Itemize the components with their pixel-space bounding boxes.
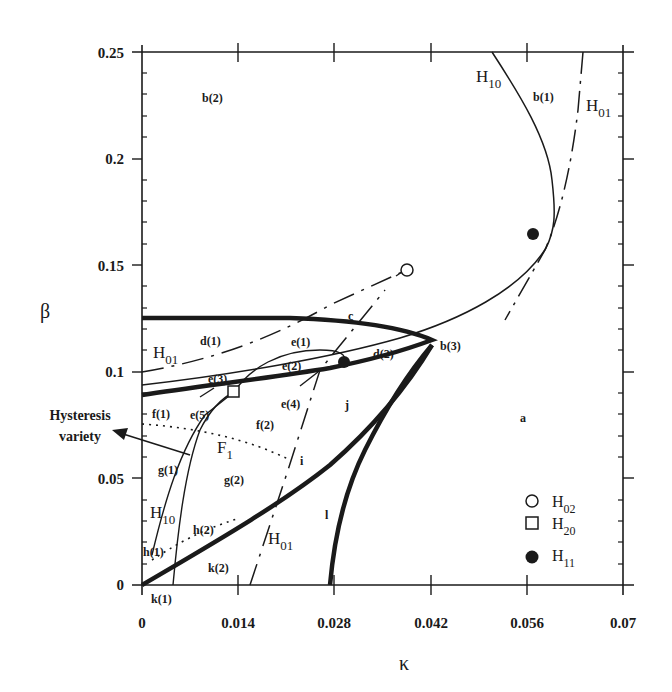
- svg-text:d(2): d(2): [373, 347, 394, 361]
- svg-text:h(2): h(2): [193, 523, 214, 537]
- svg-text:j: j: [344, 398, 349, 412]
- svg-text:H01: H01: [268, 529, 293, 553]
- svg-text:e(2): e(2): [282, 359, 301, 373]
- legend-h02-label: H02: [552, 493, 576, 516]
- legend-h20-marker: [526, 517, 538, 529]
- x-axis-title: κ: [399, 652, 409, 674]
- svg-text:F1: F1: [217, 438, 233, 462]
- svg-text:h(1): h(1): [143, 545, 164, 559]
- svg-text:0.05: 0.05: [98, 471, 124, 487]
- svg-text:i: i: [300, 454, 304, 468]
- svg-text:0.056: 0.056: [510, 615, 544, 631]
- curves: [142, 52, 583, 585]
- y-tick-labels: 0 0.05 0.1 0.15 0.2 0.25: [98, 45, 124, 593]
- svg-text:H10: H10: [150, 503, 175, 527]
- svg-text:0: 0: [138, 615, 146, 631]
- svg-text:c: c: [348, 309, 354, 323]
- x-tick-labels: 0 0.014 0.028 0.042 0.056 0.07: [138, 615, 636, 631]
- arrow-e3: [200, 388, 214, 397]
- hysteresis-label: Hysteresis: [49, 408, 111, 423]
- svg-text:b(2): b(2): [202, 91, 223, 105]
- svg-text:b(1): b(1): [533, 90, 554, 104]
- svg-text:0.014: 0.014: [221, 615, 255, 631]
- svg-text:e(4): e(4): [281, 397, 300, 411]
- h11-marker-a: [338, 356, 350, 368]
- svg-text:a: a: [520, 411, 526, 425]
- svg-text:0.042: 0.042: [414, 615, 448, 631]
- legend: H02 H20 H11: [526, 493, 576, 570]
- svg-text:b(3): b(3): [440, 339, 461, 353]
- curve-thick-right: [330, 345, 432, 585]
- y-axis-title: β: [40, 300, 50, 323]
- svg-text:0.07: 0.07: [610, 615, 637, 631]
- svg-text:e(5): e(5): [190, 408, 209, 422]
- svg-text:e(1): e(1): [291, 335, 310, 349]
- svg-text:0: 0: [117, 577, 125, 593]
- svg-text:0.1: 0.1: [105, 364, 124, 380]
- svg-text:f(2): f(2): [256, 418, 274, 432]
- h02-marker: [401, 264, 413, 276]
- svg-text:g(1): g(1): [158, 463, 178, 477]
- svg-text:H01: H01: [153, 343, 178, 367]
- svg-text:f(1): f(1): [152, 407, 170, 421]
- svg-text:d(1): d(1): [200, 334, 221, 348]
- svg-text:0.15: 0.15: [98, 258, 124, 274]
- svg-text:g(2): g(2): [224, 473, 244, 487]
- region-labels: b(2) b(1) b(3) c d(1) d(2) e(1) e(2) e(3…: [143, 90, 554, 606]
- svg-text:0.028: 0.028: [317, 615, 351, 631]
- variety-label: variety: [59, 429, 101, 444]
- svg-text:H10: H10: [476, 67, 501, 91]
- bifurcation-diagram: 0 0.014 0.028 0.042 0.056 0.07 0 0.05 0.…: [0, 0, 672, 692]
- legend-h11-marker: [526, 551, 539, 564]
- hysteresis-arrow: [112, 428, 190, 455]
- svg-text:k(1): k(1): [151, 592, 172, 606]
- svg-text:0.25: 0.25: [98, 45, 124, 61]
- h20-marker: [228, 386, 239, 397]
- svg-text:k(2): k(2): [208, 561, 229, 575]
- h11-marker-b: [527, 228, 539, 240]
- svg-text:H01: H01: [586, 96, 611, 120]
- legend-h20-label: H20: [552, 515, 576, 538]
- svg-text:e(3): e(3): [208, 372, 227, 386]
- legend-h11-label: H11: [552, 547, 575, 570]
- legend-h02-marker: [526, 495, 538, 507]
- svg-text:0.2: 0.2: [105, 151, 124, 167]
- svg-text:l: l: [325, 508, 329, 522]
